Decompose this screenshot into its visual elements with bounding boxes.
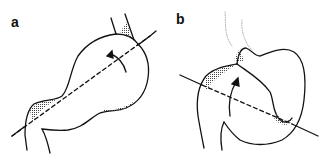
panel-a-stomach [12,14,156,153]
diagram-canvas [0,0,324,164]
panel-b-stomach [180,12,318,150]
